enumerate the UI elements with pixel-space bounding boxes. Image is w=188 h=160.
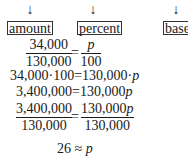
step4-equals: = (71, 109, 79, 124)
step3-variable: p (125, 84, 132, 99)
amount-label-box: amount (7, 21, 53, 35)
step2-line: 34,000·100=130,000·p (10, 68, 139, 83)
step1-left-denominator: 130,000 (26, 55, 72, 69)
step1-right-denominator: 100 (81, 55, 102, 69)
step1-left-numerator: 34,000 (30, 38, 69, 52)
arrow-down-icon-base: ↓ (169, 3, 183, 17)
step5-variable: p (86, 141, 93, 156)
step3-right: 130,000 (80, 84, 126, 99)
step4-left-numerator: 3,400,000 (16, 102, 72, 116)
step1-equals: = (71, 45, 79, 60)
step4-left-denominator: 130,000 (21, 119, 67, 133)
arrow-down-icon-amount: ↓ (23, 3, 37, 17)
step5-line: 26 ≈ p (57, 141, 93, 156)
step1-right-numerator: p (88, 38, 95, 52)
step4-right-fraction: 130,000p 130,000 (81, 102, 134, 133)
step5-left: 26 (57, 141, 71, 156)
step2-equals: = (74, 68, 82, 83)
step5-approx: ≈ (75, 141, 83, 156)
step3-equals: = (72, 84, 80, 99)
arrow-down-icon-percent: ↓ (86, 3, 100, 17)
step1-left-fraction: 34,000 130,000 (26, 38, 72, 69)
step4-right-denominator: 130,000 (85, 119, 131, 133)
step3-line: 3,400,000=130,000p (16, 84, 132, 99)
step3-left: 3,400,000 (16, 84, 72, 99)
percent-label-box: percent (77, 21, 122, 35)
base-label-box: base (163, 21, 188, 35)
step2-variable: p (132, 68, 139, 83)
step4-right-numerator: 130,000p (81, 102, 134, 116)
step2-left: 34,000·100 (10, 68, 74, 83)
step2-right: 130,000· (82, 68, 132, 83)
step1-right-fraction: p 100 (81, 38, 101, 69)
step4-left-fraction: 3,400,000 130,000 (16, 102, 72, 133)
